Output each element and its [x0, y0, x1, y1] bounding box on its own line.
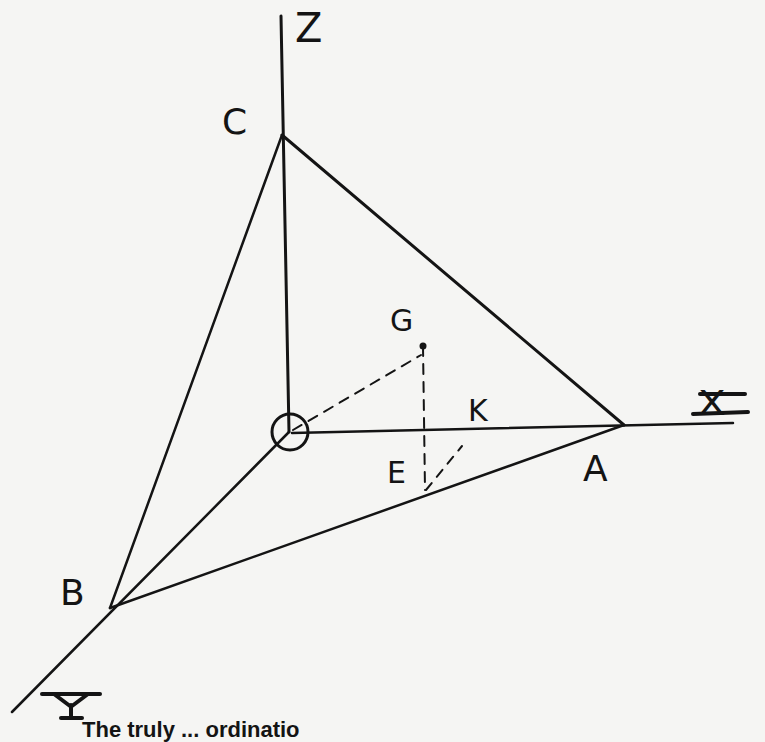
dashed-og: [293, 355, 421, 430]
point-k-label: K: [468, 396, 488, 426]
edge-ca: [282, 135, 624, 425]
point-b-label: B: [60, 575, 85, 611]
edge-ba: [110, 425, 624, 608]
point-g-label: G: [390, 306, 413, 336]
edge-cb: [110, 135, 282, 608]
point-a-label: A: [583, 451, 608, 487]
x-axis-line: [292, 423, 733, 433]
point-g-marker: [420, 343, 427, 350]
point-c-label: C: [222, 104, 247, 140]
y-axis-line: [12, 432, 289, 712]
x-axis-label: X: [698, 386, 726, 420]
z-axis-label: Z: [295, 8, 322, 48]
dashed-ge: [423, 346, 425, 490]
y-axis-label-glyph: [42, 694, 100, 718]
figure-caption: The truly ... ordinatio: [82, 719, 300, 741]
z-axis-line: [281, 16, 289, 432]
point-e-label: E: [387, 458, 406, 488]
